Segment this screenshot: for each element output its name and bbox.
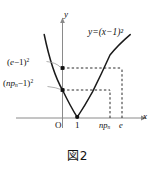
origin-label: O — [55, 121, 62, 130]
exponent-two: 2 — [30, 78, 33, 84]
leader-line-npn — [48, 87, 61, 90]
parabola-curve — [44, 35, 130, 118]
y-axis-label: y — [64, 10, 68, 19]
minus-one-close: −1) — [14, 57, 27, 67]
var-np: np — [6, 78, 15, 88]
exponent-two: 2 — [27, 57, 30, 63]
curve-equation-label: y=(x−1)² — [88, 28, 123, 38]
curve-equation-text: y=(x−1)² — [88, 27, 123, 37]
point-marker-vertex — [75, 115, 79, 119]
point-marker-e-level — [61, 66, 65, 70]
minus-one-close: −1) — [18, 78, 31, 88]
figure-container: y=(x−1)² (e−1)2 (npn−1)2 O 1 npn e x y 図… — [0, 0, 155, 169]
y-label-e-minus-one-squared: (e−1)2 — [7, 58, 29, 67]
y-label-npn-minus-one-squared: (npn−1)2 — [3, 79, 33, 89]
x-tick-label-e: e — [119, 121, 123, 130]
x-axis-label: x — [143, 112, 147, 121]
figure-caption: 図2 — [0, 146, 155, 163]
point-marker-npn-level — [61, 88, 65, 92]
np-text: np — [99, 120, 108, 130]
x-tick-label-npn: npn — [99, 121, 110, 130]
x-tick-label-one: 1 — [75, 121, 80, 130]
subscript-n: n — [108, 124, 111, 130]
leader-line-e — [47, 62, 61, 68]
